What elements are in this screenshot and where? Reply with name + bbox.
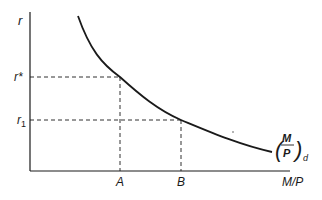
svg-text:M: M [282, 132, 292, 144]
x-axis-label: M/P [282, 175, 303, 189]
svg-text:): ) [292, 137, 302, 162]
r1-label: r1 [17, 113, 26, 129]
curve-label: ( M P ) d [275, 132, 309, 163]
svg-text:d: d [303, 153, 309, 163]
svg-text:P: P [283, 147, 291, 159]
money-demand-diagram: r r* r1 A B M/P ( M P ) d [0, 0, 322, 200]
r-star-label: r* [14, 70, 23, 84]
b-label: B [177, 175, 185, 189]
y-axis-label: r [18, 13, 23, 28]
money-demand-curve [78, 16, 272, 152]
a-label: A [115, 175, 124, 189]
speck [232, 131, 234, 133]
